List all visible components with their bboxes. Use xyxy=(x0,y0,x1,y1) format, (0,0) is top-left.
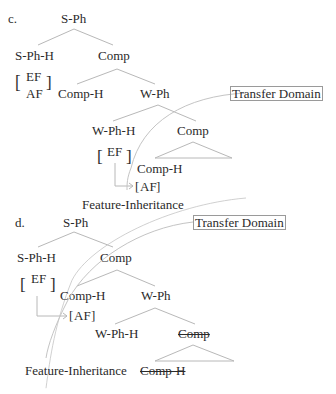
syntax-tree-diagram: c. S-Ph S-Ph-H Comp [ EF AF ] Comp-H W-P… xyxy=(0,0,336,394)
transfer-domain-curve-d xyxy=(0,0,336,394)
